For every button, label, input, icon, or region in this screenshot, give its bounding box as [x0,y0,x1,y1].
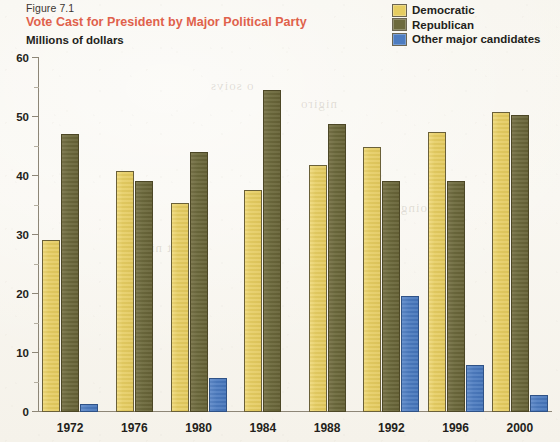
figure-label: Figure 7.1 [26,2,386,14]
bar-republican-2000 [511,115,529,412]
bar-democratic-1976 [116,171,134,412]
legend-label-republican: Republican [412,19,474,31]
x-axis-tick-label: 1972 [57,421,84,435]
x-axis-tick-label: 1984 [250,421,277,435]
bar-republican-1976 [135,181,153,412]
chart-header: Figure 7.1 Vote Cast for President by Ma… [26,2,386,47]
x-axis-tick-label: 1980 [185,421,212,435]
legend-label-other: Other major candidates [412,33,540,45]
x-axis-tick-label: 1992 [378,421,405,435]
x-axis-tick-label: 1996 [442,421,469,435]
bar-group: 1976 [102,58,166,412]
bar-democratic-1972 [42,240,60,412]
y-axis-tick-label: 60 [16,52,29,64]
bar-groups: 19721976198019841988199219962000 [38,58,552,412]
page-title: Vote Cast for President by Major Politic… [26,15,386,30]
bar-group: 2000 [488,58,552,412]
y-axis-tick-label: 40 [16,170,29,182]
bar-democratic-1980 [171,203,189,412]
x-axis-tick-label: 2000 [507,421,534,435]
bar-republican-1984 [263,90,281,412]
y-axis-unit-caption: Millions of dollars [26,33,386,47]
bar-group: 1980 [167,58,231,412]
legend-swatch-other [392,33,407,46]
bar-other-1996 [466,365,484,412]
x-axis-tick-label: 1988 [314,421,341,435]
bar-republican-1992 [382,181,400,412]
bar-other-1992 [401,296,419,412]
legend-label-democratic: Democratic [412,4,475,16]
legend-item-other: Other major candidates [392,32,556,46]
bar-group: 1972 [38,58,102,412]
y-axis-tick-label: 20 [16,288,29,300]
bar-democratic-1984 [244,190,262,412]
legend-swatch-democratic [392,4,407,17]
bar-other-1980 [209,378,227,412]
plot-area: 0102030405060 19721976198019841988199219… [38,58,552,412]
bar-other-1972 [80,404,98,412]
bar-republican-1988 [328,124,346,413]
y-axis-tick-label: 50 [16,111,29,123]
legend-item-republican: Republican [392,18,556,32]
y-axis-tick-label: 30 [16,229,29,241]
bar-democratic-1988 [309,165,327,412]
bar-republican-1996 [447,181,465,412]
bar-group: 1992 [359,58,423,412]
bar-democratic-1992 [363,147,381,412]
legend-item-democratic: Democratic [392,3,556,17]
chart-legend: Democratic Republican Other major candid… [392,3,556,47]
bar-group: 1996 [424,58,488,412]
legend-swatch-republican [392,18,407,31]
y-axis-tick-label: 0 [23,406,29,418]
bar-republican-1972 [61,134,79,412]
bar-republican-1980 [190,152,208,412]
bar-democratic-2000 [492,112,510,412]
bar-other-2000 [530,395,548,412]
x-axis-tick-label: 1976 [121,421,148,435]
bar-group: 1984 [231,58,295,412]
bar-group: 1988 [295,58,359,412]
bar-democratic-1996 [428,132,446,412]
y-axis-tick-label: 10 [16,347,29,359]
